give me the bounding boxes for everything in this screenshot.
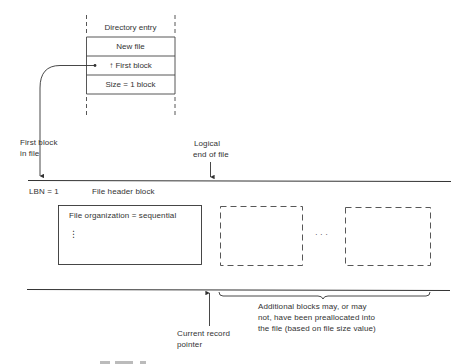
- dir-row-size: Size = 1 block: [86, 75, 175, 94]
- current-record-label-line1: Current record: [177, 329, 230, 340]
- current-record-label-line2: pointer: [177, 340, 202, 351]
- dir-row-first-block: ↑ First block: [86, 56, 175, 75]
- additional-blocks-line2: not, have been preallocated into: [258, 313, 375, 324]
- file-organization-text: File organization = sequential: [69, 211, 176, 222]
- horizontal-ellipsis: · · ·: [315, 230, 328, 241]
- vertical-ellipsis: ⋮: [69, 230, 78, 239]
- disk-bottom-line: [27, 290, 450, 291]
- logical-eof-label-line1: Logical: [194, 139, 220, 150]
- additional-blocks-brace: [219, 292, 430, 299]
- additional-blocks-line3: the file (based on file size value): [258, 324, 376, 335]
- directory-entry-title: Directory entry: [86, 18, 175, 37]
- first-block-label-line2: in file: [20, 149, 39, 160]
- first-block-label-line1: First block: [20, 138, 58, 149]
- preallocated-block-1: [221, 207, 303, 266]
- diagram-canvas: [0, 0, 471, 364]
- preallocated-block-2: [346, 208, 431, 266]
- dir-row-new-file: New file: [86, 37, 175, 56]
- additional-blocks-line1: Additional blocks may, or may: [258, 302, 367, 313]
- lbn-label: LBN = 1: [29, 187, 59, 198]
- logical-eof-label-line2: end of file: [193, 150, 229, 161]
- disk-top-line: [28, 181, 451, 182]
- file-header-block-label: File header block: [92, 187, 155, 198]
